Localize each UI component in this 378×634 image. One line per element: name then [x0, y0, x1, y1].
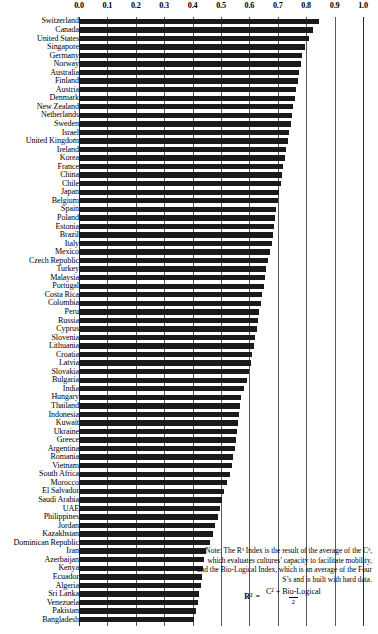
bar — [79, 96, 295, 101]
bar — [79, 284, 264, 289]
x-tick-label: 0.2 — [131, 1, 141, 10]
x-tick-label: 1.0 — [358, 1, 368, 10]
bar — [79, 583, 201, 588]
x-tick-label: 0.3 — [159, 1, 169, 10]
bar — [79, 429, 237, 434]
bar-rows: SwitzerlandCanadaUnited StatesSingaporeG… — [0, 17, 378, 624]
bar — [79, 420, 238, 425]
bar — [79, 44, 305, 49]
bar-row: China — [0, 171, 378, 180]
bar — [79, 215, 275, 220]
bar — [79, 540, 210, 545]
bar — [79, 78, 298, 83]
bar — [79, 352, 252, 357]
x-tick-label: 0.1 — [103, 1, 113, 10]
bar — [79, 301, 261, 306]
bar-category-label: Bangladesh — [42, 615, 79, 624]
bar — [79, 369, 249, 374]
bar — [79, 489, 224, 494]
bar — [79, 104, 293, 109]
x-tick-label: 0.6 — [245, 1, 255, 10]
bar — [79, 87, 296, 92]
note-text: Note: The R² Index is the result of the … — [196, 546, 372, 584]
bar — [79, 472, 230, 477]
formula-lhs: R² — [244, 592, 252, 602]
formula-denominator: 2 — [289, 597, 299, 606]
bar-row: Ireland — [0, 145, 378, 154]
x-tick-label: 0.4 — [188, 1, 198, 10]
bar — [79, 275, 265, 280]
bar — [79, 395, 241, 400]
formula-numerator: C² + Bio-Logical — [263, 588, 324, 597]
x-tick-label: 0.7 — [273, 1, 283, 10]
formula-fraction: C² + Bio-Logical 2 — [263, 588, 324, 606]
bar-row: Peru — [0, 308, 378, 317]
bar — [79, 130, 289, 135]
bar — [79, 566, 203, 571]
bar — [79, 403, 240, 408]
bar — [79, 181, 281, 186]
bar — [79, 121, 291, 126]
bar — [79, 531, 213, 536]
bar — [79, 190, 279, 195]
bar-row: Saudi Arabia — [0, 496, 378, 505]
bar-row: Bangladesh — [0, 615, 378, 624]
bar — [79, 172, 282, 177]
bar-row: Estonia — [0, 222, 378, 231]
bar — [79, 326, 257, 331]
bar-row: France — [0, 162, 378, 171]
bar — [79, 446, 235, 451]
bar — [79, 335, 255, 340]
bar-row: Sweden — [0, 120, 378, 129]
bar — [79, 258, 268, 263]
bar — [79, 514, 218, 519]
bar — [79, 617, 194, 622]
bar-row: Bulgaria — [0, 376, 378, 385]
bar — [79, 207, 276, 212]
bar — [79, 198, 278, 203]
bar — [79, 497, 222, 502]
bar — [79, 454, 233, 459]
bar — [79, 164, 283, 169]
bar — [79, 36, 309, 41]
bar — [79, 600, 198, 605]
bar — [79, 318, 258, 323]
bar-row: Belgium — [0, 196, 378, 205]
bar — [79, 309, 259, 314]
bar — [79, 480, 227, 485]
bar — [79, 70, 299, 75]
bar — [79, 360, 251, 365]
bar — [79, 591, 199, 596]
bar — [79, 232, 273, 237]
note-formula: R² = C² + Bio-Logical 2 — [196, 588, 372, 606]
bar — [79, 378, 247, 383]
bar — [79, 147, 286, 152]
x-tick-label: 0.0 — [74, 1, 84, 10]
bar-row: Chile — [0, 179, 378, 188]
bar — [79, 155, 285, 160]
x-tick-label: 0.5 — [216, 1, 226, 10]
bar — [79, 386, 244, 391]
bar — [79, 27, 313, 32]
x-tick-label: 0.8 — [301, 1, 311, 10]
bar — [79, 608, 196, 613]
bar-chart: 0.00.10.20.30.40.50.60.70.80.91.0 Switze… — [0, 0, 378, 634]
bar-row: Croatia — [0, 350, 378, 359]
x-axis-tick-labels: 0.00.10.20.30.40.50.60.70.80.91.0 — [0, 0, 378, 16]
bar — [79, 523, 215, 528]
bar — [79, 19, 319, 24]
bar — [79, 463, 232, 468]
chart-note: Note: The R² Index is the result of the … — [196, 546, 372, 606]
bar — [79, 574, 202, 579]
bar — [79, 241, 272, 246]
bar — [79, 343, 254, 348]
bar — [79, 548, 206, 553]
bar — [79, 138, 288, 143]
bar — [79, 224, 274, 229]
bar — [79, 266, 266, 271]
formula-equals: = — [255, 592, 260, 602]
bar — [79, 437, 236, 442]
bar — [79, 506, 220, 511]
bar — [79, 412, 239, 417]
bar — [79, 113, 292, 118]
